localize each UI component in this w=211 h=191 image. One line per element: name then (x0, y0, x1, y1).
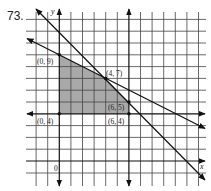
vertex-label-0-4: (0, 4) (37, 117, 54, 126)
x-axis-label: x (199, 162, 204, 171)
vertex-label-6-5: (6, 5) (108, 103, 125, 112)
vertex-label-4-7: (4, 7) (106, 69, 123, 78)
line-x-plus-2y-equals-18 (27, 39, 205, 129)
vertex-label-0-9: (0, 9) (37, 57, 54, 66)
y-axis-label: y (50, 7, 55, 16)
coordinate-graph: (0, 9) (4, 7) (6, 5) (6, 4) (0, 4) y x 0 (0, 0, 211, 191)
origin-label: 0 (54, 164, 58, 173)
vertex-label-6-4: (6, 4) (108, 117, 125, 126)
